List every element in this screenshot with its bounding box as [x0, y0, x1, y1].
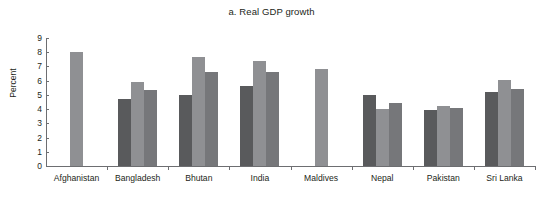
bar-group-bangladesh — [107, 38, 168, 166]
bar-bangladesh-series-2 — [131, 82, 144, 166]
bar-nepal-series-2 — [376, 109, 389, 166]
y-axis-tick-1: 1 — [24, 148, 42, 157]
bar-bhutan-series-1 — [179, 95, 192, 166]
y-axis-tickmark — [46, 152, 49, 153]
y-axis-tickmark — [46, 138, 49, 139]
y-axis-tickmark — [46, 38, 49, 39]
x-axis-tickmark — [229, 166, 230, 170]
y-axis-tick-4: 4 — [24, 105, 42, 114]
x-axis-tickmark — [168, 166, 169, 170]
x-axis-tickmark — [291, 166, 292, 170]
bar-bhutan-series-3 — [205, 72, 218, 166]
y-axis-tickmark — [46, 81, 49, 82]
x-axis-label-bhutan: Bhutan — [185, 173, 212, 183]
y-axis-tick-9: 9 — [24, 34, 42, 43]
bar-pakistan-series-2 — [437, 106, 450, 166]
chart-title: a. Real GDP growth — [0, 6, 543, 17]
bar-group-india — [229, 38, 290, 166]
x-axis-tickmark — [474, 166, 475, 170]
plot-area — [46, 38, 535, 166]
bar-pakistan-series-3 — [450, 108, 463, 166]
bar-bangladesh-series-1 — [118, 99, 131, 166]
x-axis-label-pakistan: Pakistan — [427, 173, 460, 183]
bar-group-afghanistan — [46, 38, 107, 166]
y-axis-tickmark — [46, 52, 49, 53]
x-axis-tickmark — [107, 166, 108, 170]
bar-nepal-series-3 — [389, 103, 402, 166]
x-axis-label-maldives: Maldives — [304, 173, 338, 183]
x-axis-tickmark — [352, 166, 353, 170]
bar-maldives-series-2 — [315, 69, 328, 166]
y-axis-tick-6: 6 — [24, 76, 42, 85]
bar-india-series-3 — [266, 72, 279, 166]
y-axis-tickmark — [46, 66, 49, 67]
x-axis-label-nepal: Nepal — [371, 173, 393, 183]
x-axis-label-india: India — [251, 173, 270, 183]
bar-india-series-1 — [240, 86, 253, 166]
y-axis-tick-labels: 0123456789 — [24, 38, 42, 166]
y-axis-tickmark — [46, 123, 49, 124]
y-axis-label: Percent — [8, 53, 18, 113]
bar-sri-lanka-series-2 — [498, 80, 511, 166]
y-axis-tickmark — [46, 109, 49, 110]
y-axis-tickmark — [46, 95, 49, 96]
bar-group-pakistan — [413, 38, 474, 166]
x-axis-tickmark — [413, 166, 414, 170]
bar-bhutan-series-2 — [192, 57, 205, 167]
x-axis-label-afghanistan: Afghanistan — [54, 173, 99, 183]
bar-group-maldives — [291, 38, 352, 166]
bar-sri-lanka-series-3 — [511, 89, 524, 166]
chart-container: a. Real GDP growth Percent 0123456789 Af… — [0, 0, 543, 201]
y-axis-tick-8: 8 — [24, 48, 42, 57]
bar-afghanistan-series-2 — [70, 52, 83, 166]
bar-nepal-series-1 — [363, 95, 376, 166]
y-axis-tick-2: 2 — [24, 133, 42, 142]
bar-group-nepal — [352, 38, 413, 166]
bar-india-series-2 — [253, 61, 266, 166]
bar-group-sri-lanka — [474, 38, 535, 166]
bar-pakistan-series-1 — [424, 110, 437, 166]
x-axis-tickmark — [535, 166, 536, 170]
x-axis-label-bangladesh: Bangladesh — [115, 173, 160, 183]
x-axis-label-sri-lanka: Sri Lanka — [486, 173, 522, 183]
bar-bangladesh-series-3 — [144, 90, 157, 166]
y-axis-tick-3: 3 — [24, 119, 42, 128]
bar-sri-lanka-series-1 — [485, 92, 498, 166]
y-axis-tick-5: 5 — [24, 91, 42, 100]
y-axis-tick-0: 0 — [24, 162, 42, 171]
y-axis-tick-7: 7 — [24, 62, 42, 71]
bar-group-bhutan — [168, 38, 229, 166]
